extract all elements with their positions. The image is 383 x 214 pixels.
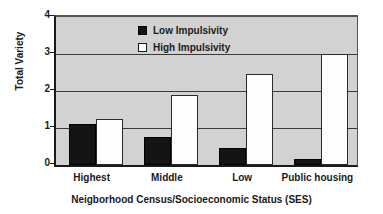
gridline [56,91,357,92]
y-tick-label: 2 [32,83,50,95]
bar-low-impulsivity [69,124,96,165]
y-tick-label: 1 [32,120,50,132]
legend-label-low-impulsivity: Low Impulsivity [153,25,228,36]
legend-item-low-impulsivity: Low Impulsivity [138,23,288,38]
x-tick-label: Middle [151,172,183,183]
x-axis-title: Neigborhood Census/Socioeconomic Status … [0,194,383,205]
y-tick-label: 4 [32,9,50,21]
legend-label-high-impulsivity: High Impulsivity [153,42,230,53]
legend-item-high-impulsivity: High Impulsivity [138,40,288,55]
x-axis-tick-labels: HighestMiddleLowPublic housing [54,172,355,188]
chart-legend: Low Impulsivity High Impulsivity [138,23,288,57]
bar-low-impulsivity [294,159,321,165]
legend-swatch-low-impulsivity [138,26,147,35]
bar-high-impulsivity [96,119,123,165]
y-axis-title: Total Variety [13,1,27,121]
y-tick-label: 0 [32,157,50,169]
x-tick-label: Highest [73,172,110,183]
bar-low-impulsivity [219,148,246,165]
bar-high-impulsivity [246,74,273,165]
bar-low-impulsivity [144,137,171,165]
bar-high-impulsivity [171,95,198,165]
legend-swatch-high-impulsivity [138,43,147,52]
bar-high-impulsivity [321,54,348,165]
y-axis-tick-labels: 01234 [30,0,50,214]
y-tick-label: 3 [32,46,50,58]
plot-area: Low Impulsivity High Impulsivity [54,15,358,167]
x-tick-label: Low [232,172,252,183]
x-tick-label: Public housing [282,172,354,183]
bar-chart-figure: Total Variety 01234 Low Impulsivity High… [0,0,383,214]
